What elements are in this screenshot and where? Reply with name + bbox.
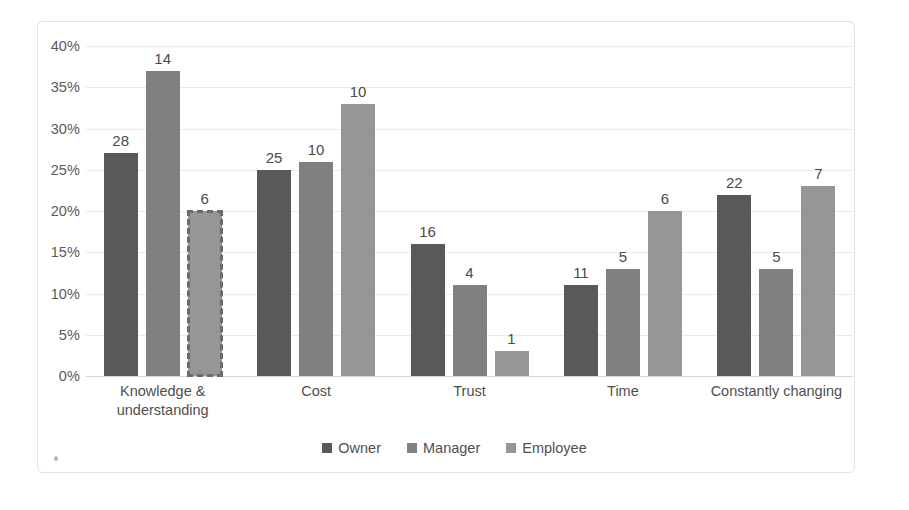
bar-manager[interactable] [606, 269, 640, 376]
bar-owner[interactable] [411, 244, 445, 376]
x-axis-category-line1: Constantly changing [700, 382, 853, 401]
bar-group: 1641 [393, 46, 546, 376]
bar-value-label: 4 [465, 264, 473, 281]
bar-column: 10 [299, 46, 333, 376]
bar-column: 6 [648, 46, 682, 376]
y-axis-tick-label: 5% [36, 327, 80, 343]
x-axis-category-label: Knowledge &understanding [86, 382, 239, 420]
bar-value-label: 10 [350, 83, 367, 100]
bar-column: 28 [104, 46, 138, 376]
legend-swatch-icon [506, 443, 516, 453]
legend-item-employee[interactable]: Employee [506, 440, 586, 456]
bar-value-label: 10 [308, 141, 325, 158]
bar-value-label: 5 [772, 248, 780, 265]
bar-value-label: 6 [661, 190, 669, 207]
bar-value-label: 11 [573, 264, 589, 281]
chart-legend: OwnerManagerEmployee [0, 440, 909, 456]
plot-area: 28146251010164111562257 [86, 46, 853, 376]
y-axis-tick-label: 30% [36, 121, 80, 137]
legend-label: Employee [522, 440, 586, 456]
legend-item-owner[interactable]: Owner [322, 440, 381, 456]
bar-manager[interactable] [299, 162, 333, 377]
y-axis-tick-label: 10% [36, 286, 80, 302]
legend-item-manager[interactable]: Manager [407, 440, 480, 456]
scan-artifact-dot [54, 456, 58, 461]
bar-column: 5 [606, 46, 640, 376]
bar-column: 4 [453, 46, 487, 376]
legend-swatch-icon [407, 443, 417, 453]
bar-column: 14 [146, 46, 180, 376]
bar-group: 1156 [546, 46, 699, 376]
gridline [86, 376, 853, 377]
bar-value-label: 1 [507, 330, 515, 347]
bar-column: 25 [257, 46, 291, 376]
bar-column: 11 [564, 46, 598, 376]
bar-column: 7 [801, 46, 835, 376]
bar-group: 251010 [239, 46, 392, 376]
bar-owner[interactable] [717, 195, 751, 377]
x-axis-category-line2: understanding [86, 401, 239, 420]
bar-value-label: 25 [266, 149, 283, 166]
bar-manager[interactable] [759, 269, 793, 376]
x-axis-category-label: Time [546, 382, 699, 420]
y-axis-tick-label: 0% [36, 368, 80, 384]
bar-employee[interactable] [341, 104, 375, 376]
bar-owner[interactable] [257, 170, 291, 376]
legend-swatch-icon [322, 443, 332, 453]
y-axis-tick-label: 25% [36, 162, 80, 178]
bar-groups: 28146251010164111562257 [86, 46, 853, 376]
x-axis-category-line1: Time [546, 382, 699, 401]
bar-employee[interactable] [648, 211, 682, 376]
bar-value-label: 7 [814, 165, 822, 182]
bar-employee[interactable] [801, 186, 835, 376]
x-axis: Knowledge &understandingCostTrustTimeCon… [86, 382, 853, 420]
bar-manager[interactable] [146, 71, 180, 376]
y-axis-tick-label: 35% [36, 79, 80, 95]
bar-manager[interactable] [453, 285, 487, 376]
bar-value-label: 16 [419, 223, 436, 240]
bar-value-label: 22 [726, 174, 743, 191]
x-axis-category-line1: Cost [239, 382, 392, 401]
bar-column: 1 [495, 46, 529, 376]
x-axis-category-label: Cost [239, 382, 392, 420]
bar-column: 10 [341, 46, 375, 376]
bar-employee[interactable] [495, 351, 529, 376]
y-axis-tick-label: 40% [36, 38, 80, 54]
bar-value-label: 5 [619, 248, 627, 265]
bar-column: 5 [759, 46, 793, 376]
legend-label: Owner [338, 440, 381, 456]
x-axis-category-line1: Trust [393, 382, 546, 401]
bar-column: 16 [411, 46, 445, 376]
x-axis-category-label: Trust [393, 382, 546, 420]
x-axis-category-line1: Knowledge & [86, 382, 239, 401]
bar-owner[interactable] [564, 285, 598, 376]
bar-employee-selected[interactable] [188, 211, 222, 376]
y-axis-tick-label: 20% [36, 203, 80, 219]
bar-value-label: 14 [154, 50, 171, 67]
bar-owner[interactable] [104, 153, 138, 376]
y-axis: 40%35%30%25%20%15%10%5%0% [36, 46, 80, 376]
bar-group: 2257 [700, 46, 853, 376]
y-axis-tick-label: 15% [36, 244, 80, 260]
bar-group: 28146 [86, 46, 239, 376]
bar-column: 22 [717, 46, 751, 376]
bar-value-label: 28 [112, 132, 129, 149]
bar-column: 6 [188, 46, 222, 376]
x-axis-category-label: Constantly changing [700, 382, 853, 420]
legend-label: Manager [423, 440, 480, 456]
bar-value-label: 6 [201, 190, 209, 207]
